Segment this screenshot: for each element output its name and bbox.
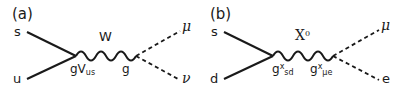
vertex-coupling-base-left: gV — [70, 62, 86, 76]
vertex-coupling-label-left: gVus — [70, 63, 95, 77]
propagator-line-x0 — [273, 52, 333, 61]
vertex-coupling-sub-left: sd — [284, 68, 293, 77]
outgoing-line-mu — [136, 31, 180, 56]
particle-label-outgoing-nu: ν — [182, 71, 191, 85]
boson-label-x0-sup: 0 — [305, 29, 310, 38]
vertex-coupling-sub-right: μe — [322, 68, 332, 77]
outgoing-line-mu — [333, 30, 379, 56]
outgoing-line-e — [333, 56, 379, 80]
vertex-coupling-label-left: gxsd — [272, 63, 294, 77]
feynman-diagram-figure: (a) s u W gVus g μ ν (b) s d — [0, 0, 403, 97]
particle-label-incoming-d: d — [210, 72, 218, 85]
incoming-line-s — [27, 32, 76, 56]
propagator-line-w — [76, 52, 136, 61]
incoming-line-d — [224, 56, 273, 79]
particle-label-incoming-u: u — [13, 72, 21, 85]
particle-label-incoming-s: s — [211, 25, 218, 38]
outgoing-line-nu — [136, 56, 180, 80]
incoming-line-s — [224, 32, 273, 56]
boson-label-w: W — [99, 30, 112, 43]
particle-label-outgoing-e: e — [382, 72, 390, 85]
boson-label-x0-base: X — [295, 27, 305, 43]
vertex-coupling-base-left: g — [272, 62, 280, 76]
vertex-coupling-sub-left: us — [86, 68, 95, 77]
panel-label-a: (a) — [12, 7, 33, 22]
vertex-coupling-base-right: g — [310, 62, 318, 76]
vertex-coupling-label-right: gxμe — [310, 63, 332, 77]
particle-label-outgoing-mu: μ — [182, 19, 191, 33]
feynman-diagram-panel-b: (b) s d X0 gxsd gxμe μ e — [201, 0, 403, 97]
particle-label-incoming-s: s — [14, 25, 21, 38]
panel-label-b: (b) — [210, 7, 231, 22]
panel-b-lines — [201, 0, 403, 97]
particle-label-outgoing-mu: μ — [381, 18, 390, 32]
boson-label-x0: X0 — [295, 28, 310, 42]
vertex-coupling-label-right: g — [122, 63, 130, 77]
feynman-diagram-panel-a: (a) s u W gVus g μ ν — [0, 0, 201, 97]
vertex-coupling-base-right: g — [122, 62, 130, 76]
incoming-line-u — [27, 56, 76, 79]
